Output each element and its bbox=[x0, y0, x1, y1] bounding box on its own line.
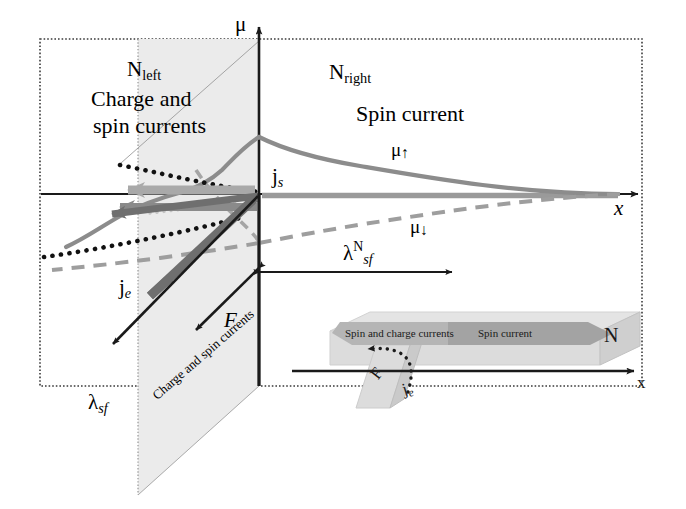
inset-x-label: x bbox=[637, 374, 646, 391]
region-left-name-base: N bbox=[127, 57, 142, 81]
lambda-sf-N-sub: sf bbox=[363, 251, 373, 267]
lambda-sf-N-base: λ bbox=[343, 241, 353, 265]
region-right-name-sub: right bbox=[344, 70, 371, 86]
lambda-sf-N-label: λNsf bbox=[343, 240, 373, 266]
mu-up-label: μ↑ bbox=[391, 140, 409, 160]
charge-current-label: je bbox=[119, 277, 131, 300]
region-left-caption-line2: spin currents bbox=[93, 115, 206, 137]
spin-current-label: js bbox=[272, 166, 283, 189]
mu-down-curve-right bbox=[259, 194, 620, 243]
inset-slab-label: N bbox=[604, 325, 618, 345]
lambda-sf-sub: sf bbox=[98, 400, 108, 416]
region-left-name-sub: left bbox=[142, 67, 161, 83]
lambda-sf-label: λsf bbox=[88, 392, 108, 415]
inset-spin-current-label: Spin current bbox=[478, 328, 532, 339]
je-sub: e bbox=[125, 285, 131, 301]
lambda-sf-base: λ bbox=[88, 390, 98, 414]
mu-up-label-base: μ bbox=[391, 139, 401, 160]
mu-down-label-arrow: ↓ bbox=[420, 221, 428, 238]
region-left-name: Nleft bbox=[127, 59, 161, 82]
mu-down-label-base: μ bbox=[410, 216, 420, 237]
region-right-caption: Spin current bbox=[356, 103, 464, 125]
js-sub: s bbox=[278, 174, 284, 190]
mu-axis-label: μ bbox=[235, 14, 246, 35]
region-left-caption-line1: Charge and bbox=[91, 88, 191, 110]
region-right-name-base: N bbox=[329, 60, 344, 84]
mu-down-label: μ↓ bbox=[410, 217, 428, 237]
x-axis-label: x bbox=[614, 198, 623, 219]
lambda-sf-N-sup: N bbox=[353, 239, 363, 254]
mu-up-label-arrow: ↑ bbox=[401, 144, 409, 161]
spin-current-diagram: μ x Nleft Charge and spin currents Nrigh… bbox=[0, 0, 686, 509]
inset-spin-charge-label: Spin and charge currents bbox=[345, 328, 454, 339]
region-right-name: Nright bbox=[329, 62, 371, 85]
mu-up-curve-right bbox=[259, 137, 618, 194]
